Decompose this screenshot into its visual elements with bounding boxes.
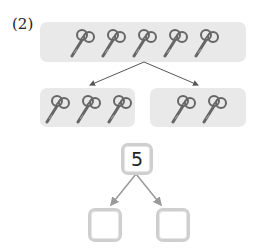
part-group-left-box — [40, 88, 135, 127]
scissors-icon — [200, 92, 227, 124]
scissors-icon — [105, 92, 132, 124]
bond-left-answer-box[interactable] — [88, 208, 122, 242]
scissors-icon — [74, 92, 101, 124]
bond-right-answer-box[interactable] — [156, 208, 190, 242]
part-group-right-box — [150, 88, 246, 127]
scissors-icon — [169, 92, 196, 124]
scissors-icon — [43, 92, 70, 124]
bond-whole-box: 5 — [121, 143, 153, 175]
